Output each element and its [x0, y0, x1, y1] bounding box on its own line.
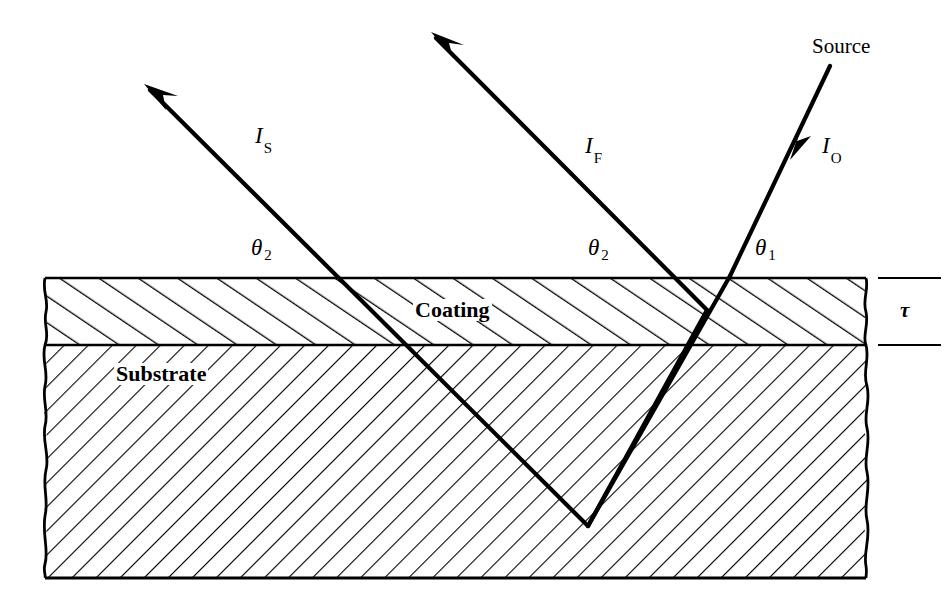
angle-incidence-subscript: 1 — [768, 247, 776, 263]
tau-glyph: τ — [900, 298, 909, 322]
incident-ray-symbol: I — [822, 133, 830, 158]
angle-refraction-mid-label: θ2 — [588, 236, 607, 259]
ray-arrowheads — [144, 32, 811, 160]
arrowhead-film-reflected-IF — [431, 32, 464, 58]
thickness-label: τ — [900, 300, 909, 321]
angle-refraction-left-subscript: 2 — [264, 247, 272, 263]
theta-glyph: θ — [251, 235, 262, 260]
theta-glyph: θ — [588, 235, 599, 260]
surface-reflected-ray-symbol: I — [255, 123, 263, 148]
incident-ray-label: IO — [822, 134, 841, 162]
incident-ray-subscript: O — [831, 150, 842, 166]
angle-incidence-label: θ1 — [755, 236, 774, 259]
substrate-layer-label: Substrate — [114, 363, 208, 385]
surface-reflected-ray-subscript: S — [264, 140, 272, 156]
film-reflected-ray-subscript: F — [594, 150, 602, 166]
angle-refraction-left-label: θ2 — [251, 236, 270, 259]
angle-refraction-mid-subscript: 2 — [601, 247, 609, 263]
arrowhead-surface-reflected-IS — [144, 84, 178, 110]
theta-glyph: θ — [755, 235, 766, 260]
coating-layer-label: Coating — [413, 299, 492, 321]
incident-ray-IO — [730, 66, 830, 276]
film-reflected-ray-symbol: I — [585, 133, 593, 158]
film-reflected-ray-IF — [436, 38, 707, 310]
film-reflected-ray-label: IF — [585, 134, 601, 162]
figure-root: Source IO IS IF θ2 θ2 θ1 Coating Substra… — [0, 0, 952, 610]
surface-reflected-ray-label: IS — [255, 124, 271, 152]
source-label: Source — [812, 36, 870, 57]
thickness-marker — [878, 278, 941, 345]
